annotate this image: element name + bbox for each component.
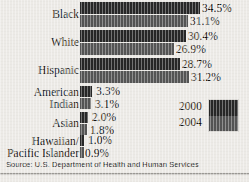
bar-american-indian-2004[interactable] xyxy=(80,98,91,109)
category-label-asian: Asian xyxy=(0,118,79,130)
bar-white-2000[interactable] xyxy=(80,30,186,42)
legend-swatches xyxy=(208,99,239,132)
footer-divider-shadow xyxy=(0,174,249,175)
legend-label-2004: 2004 xyxy=(160,114,202,130)
legend-labels: 2000 2004 xyxy=(160,98,202,130)
bar-black-2000[interactable] xyxy=(80,2,200,14)
bar-group-hispanic: Hispanic 28.7% 31.2% xyxy=(0,58,249,84)
value-label-black-2004: 31.1% xyxy=(190,16,220,28)
legend-swatch-2000 xyxy=(209,100,238,116)
bar-hawaiian-2004[interactable] xyxy=(80,147,84,158)
bar-american-indian-2000[interactable] xyxy=(80,86,92,97)
value-label-hawaiian-2000: 1.0% xyxy=(88,135,112,147)
source-note: Source: U.S. Department of Health and Hu… xyxy=(6,160,199,169)
value-label-american-indian-2000: 3.3% xyxy=(96,86,120,98)
value-label-hispanic-2004: 31.2% xyxy=(191,72,221,84)
bar-hispanic-2000[interactable] xyxy=(80,58,180,70)
bar-asian-2004[interactable] xyxy=(80,124,87,135)
bar-white-2004[interactable] xyxy=(80,43,174,55)
value-label-hispanic-2000: 28.7% xyxy=(182,59,212,71)
value-label-hawaiian-2004: 0.9% xyxy=(85,148,109,160)
value-label-asian-2000: 2.0% xyxy=(92,112,116,124)
bar-group-hawaiian-pacific-islander: Hawaiian/ Pacific Islander 1.0% 0.9% xyxy=(0,135,249,159)
category-label-hawaiian-pacific-islander: Hawaiian/ Pacific Islander xyxy=(0,135,79,159)
value-label-white-2000: 30.4% xyxy=(188,31,218,43)
legend: 2000 2004 xyxy=(160,98,246,132)
legend-swatch-2004 xyxy=(209,116,238,132)
bar-chart: Black 34.5% 31.1% White 30.4% 26.9% Hisp… xyxy=(0,0,249,182)
bar-asian-2000[interactable] xyxy=(80,112,88,123)
category-label-black: Black xyxy=(0,9,79,21)
value-label-white-2004: 26.9% xyxy=(176,44,206,56)
plot-area: Black 34.5% 31.1% White 30.4% 26.9% Hisp… xyxy=(0,0,249,158)
value-label-black-2000: 34.5% xyxy=(202,3,232,15)
bar-black-2004[interactable] xyxy=(80,15,188,27)
category-label-american-indian: American Indian xyxy=(0,86,79,110)
bar-hawaiian-2000[interactable] xyxy=(80,135,84,146)
category-label-hispanic: Hispanic xyxy=(0,65,79,77)
bar-group-white: White 30.4% 26.9% xyxy=(0,30,249,56)
value-label-american-indian-2004: 3.1% xyxy=(95,99,119,111)
bar-group-black: Black 34.5% 31.1% xyxy=(0,2,249,28)
bar-hispanic-2004[interactable] xyxy=(80,71,189,83)
legend-label-2000: 2000 xyxy=(160,98,202,114)
category-label-white: White xyxy=(0,37,79,49)
